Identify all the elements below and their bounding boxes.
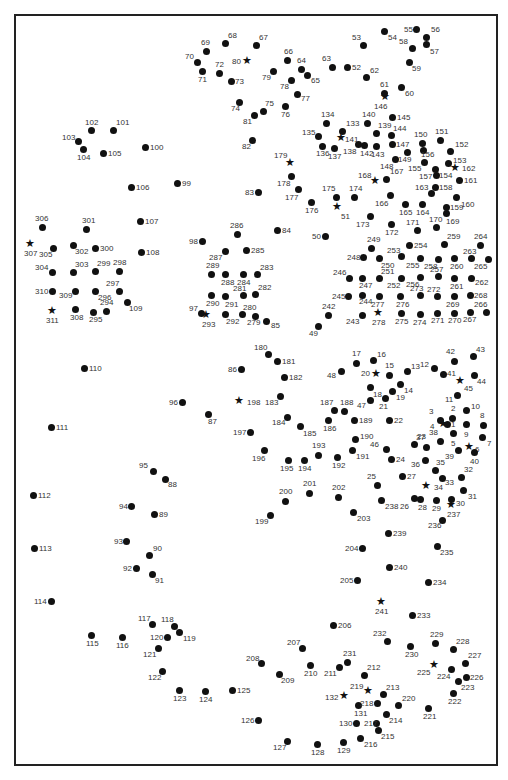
dot-number-label: 184 bbox=[272, 418, 285, 427]
dot-marker bbox=[325, 417, 332, 424]
dot-number-label: 68 bbox=[228, 31, 237, 40]
dot-number-label: 81 bbox=[243, 117, 252, 126]
dot-marker bbox=[467, 292, 474, 299]
dot-number-label: 185 bbox=[303, 429, 316, 438]
dot-marker bbox=[72, 288, 79, 295]
dot-number-label: 303 bbox=[75, 260, 88, 269]
star-icon: ★ bbox=[446, 499, 456, 510]
dot-marker bbox=[409, 612, 416, 619]
dot-marker bbox=[265, 351, 272, 358]
dot-number-label: 200 bbox=[279, 487, 292, 496]
dot-number-label: 126 bbox=[241, 716, 254, 725]
dot-number-label: 224 bbox=[437, 672, 450, 681]
dot-marker bbox=[425, 705, 432, 712]
dot-number-label: 214 bbox=[389, 716, 402, 725]
dot-number-label: 137 bbox=[328, 152, 341, 161]
dot-marker bbox=[270, 68, 277, 75]
dot-marker bbox=[123, 538, 130, 545]
dot-marker bbox=[330, 622, 337, 629]
dot-number-label: 26 bbox=[400, 502, 409, 511]
dot-marker bbox=[294, 91, 301, 98]
dot-marker bbox=[361, 672, 368, 679]
dot-number-label: 290 bbox=[206, 299, 219, 308]
dot-number-label: 134 bbox=[321, 110, 334, 119]
dot-marker bbox=[374, 482, 381, 489]
dot-number-label: 116 bbox=[116, 641, 129, 650]
dot-marker bbox=[359, 545, 366, 552]
dot-marker bbox=[381, 28, 388, 35]
dot-number-label: 73 bbox=[235, 77, 244, 86]
star-icon: ★ bbox=[373, 307, 383, 318]
dot-marker bbox=[344, 659, 351, 666]
dot-number-label: 208 bbox=[246, 654, 259, 663]
dot-marker bbox=[395, 702, 402, 709]
dot-number-label: 163 bbox=[415, 183, 428, 192]
dot-marker bbox=[463, 407, 470, 414]
dot-marker bbox=[376, 275, 383, 282]
dot-marker bbox=[480, 422, 487, 429]
dot-marker bbox=[468, 275, 475, 282]
dot-marker bbox=[260, 108, 267, 115]
dot-number-label: 279 bbox=[247, 318, 260, 327]
dot-number-label: 292 bbox=[226, 317, 239, 326]
dot-number-label: 310 bbox=[35, 287, 48, 296]
star-icon: ★ bbox=[438, 418, 448, 429]
dot-marker bbox=[247, 429, 254, 436]
dot-number-label: 248 bbox=[347, 253, 360, 262]
dot-marker bbox=[128, 184, 135, 191]
dot-marker bbox=[398, 310, 405, 317]
dot-number-label: 181 bbox=[282, 357, 295, 366]
dot-number-label: 231 bbox=[343, 649, 356, 658]
dot-number-label: 143 bbox=[371, 150, 384, 159]
dot-marker bbox=[261, 447, 268, 454]
dot-marker bbox=[447, 148, 454, 155]
dot-number-label: 307 bbox=[24, 249, 37, 258]
dot-marker bbox=[453, 194, 460, 201]
dot-number-label: 110 bbox=[89, 364, 102, 373]
dot-number-label: 12 bbox=[420, 360, 429, 369]
dot-number-label: 19 bbox=[396, 393, 405, 402]
dot-number-label: 55 bbox=[404, 25, 413, 34]
dot-marker bbox=[333, 194, 340, 201]
dot-number-label: 101 bbox=[116, 118, 129, 127]
dot-marker bbox=[357, 735, 364, 742]
dot-number-label: 164 bbox=[416, 208, 429, 217]
dot-marker bbox=[253, 42, 260, 49]
dot-number-label: 44 bbox=[477, 377, 486, 386]
dot-number-label: 21 bbox=[379, 402, 388, 411]
dot-number-label: 251 bbox=[381, 267, 394, 276]
dot-number-label: 298 bbox=[113, 258, 126, 267]
dot-number-label: 272 bbox=[427, 285, 440, 294]
dot-number-label: 301 bbox=[82, 216, 95, 225]
dot-marker bbox=[222, 40, 229, 47]
dot-number-label: 241 bbox=[375, 607, 388, 616]
dot-number-label: 280 bbox=[243, 303, 256, 312]
dot-number-label: 192 bbox=[332, 461, 345, 470]
dot-number-label: 218 bbox=[360, 699, 373, 708]
dot-number-label: 109 bbox=[129, 304, 142, 313]
dot-marker bbox=[100, 150, 107, 157]
dot-number-label: 255 bbox=[406, 261, 419, 270]
dot-number-label: 43 bbox=[476, 345, 485, 354]
dot-marker bbox=[331, 145, 338, 152]
dot-number-label: 220 bbox=[402, 694, 415, 703]
dot-marker bbox=[361, 142, 368, 149]
dot-number-label: 89 bbox=[159, 510, 168, 519]
dot-marker bbox=[389, 114, 396, 121]
dot-marker bbox=[477, 242, 484, 249]
dot-marker bbox=[463, 421, 470, 428]
dot-number-label: 198 bbox=[247, 398, 260, 407]
dot-marker bbox=[376, 293, 383, 300]
dot-number-label: 52 bbox=[352, 63, 361, 72]
dot-number-label: 302 bbox=[75, 247, 88, 256]
dot-number-label: 276 bbox=[396, 300, 409, 309]
dot-number-label: 3 bbox=[429, 407, 433, 416]
dot-marker bbox=[314, 741, 321, 748]
dot-number-label: 162 bbox=[462, 164, 475, 173]
dot-number-label: 293 bbox=[202, 320, 215, 329]
dot-number-label: 219 bbox=[350, 682, 363, 691]
dot-marker bbox=[335, 494, 342, 501]
dot-number-label: 260 bbox=[450, 262, 463, 271]
dot-number-label: 207 bbox=[287, 638, 300, 647]
dot-marker bbox=[378, 497, 385, 504]
